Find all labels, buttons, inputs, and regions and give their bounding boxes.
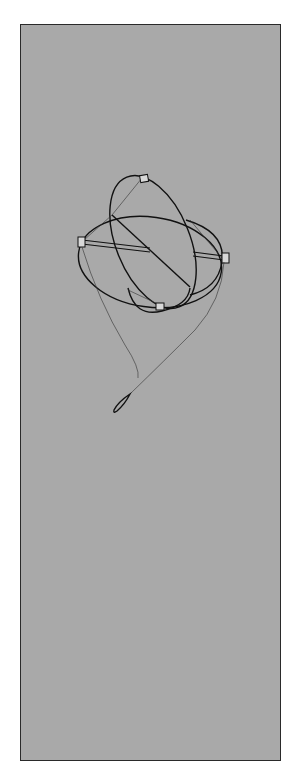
string-loop <box>114 394 130 412</box>
left-axle-cap <box>78 237 85 247</box>
diagonal-spoke <box>112 215 190 287</box>
upper-spoke <box>112 178 142 215</box>
left-spoke <box>84 215 112 240</box>
lower-spoke <box>128 290 160 305</box>
top-clamp <box>140 174 149 182</box>
bottom-clamp <box>156 303 164 310</box>
right-axle-cap <box>222 253 229 263</box>
axle-rod-right <box>193 252 224 256</box>
gyroscope-drawing <box>0 0 301 778</box>
left-string <box>82 247 138 378</box>
right-string <box>130 262 224 394</box>
axle-rod-left-b <box>82 244 150 252</box>
